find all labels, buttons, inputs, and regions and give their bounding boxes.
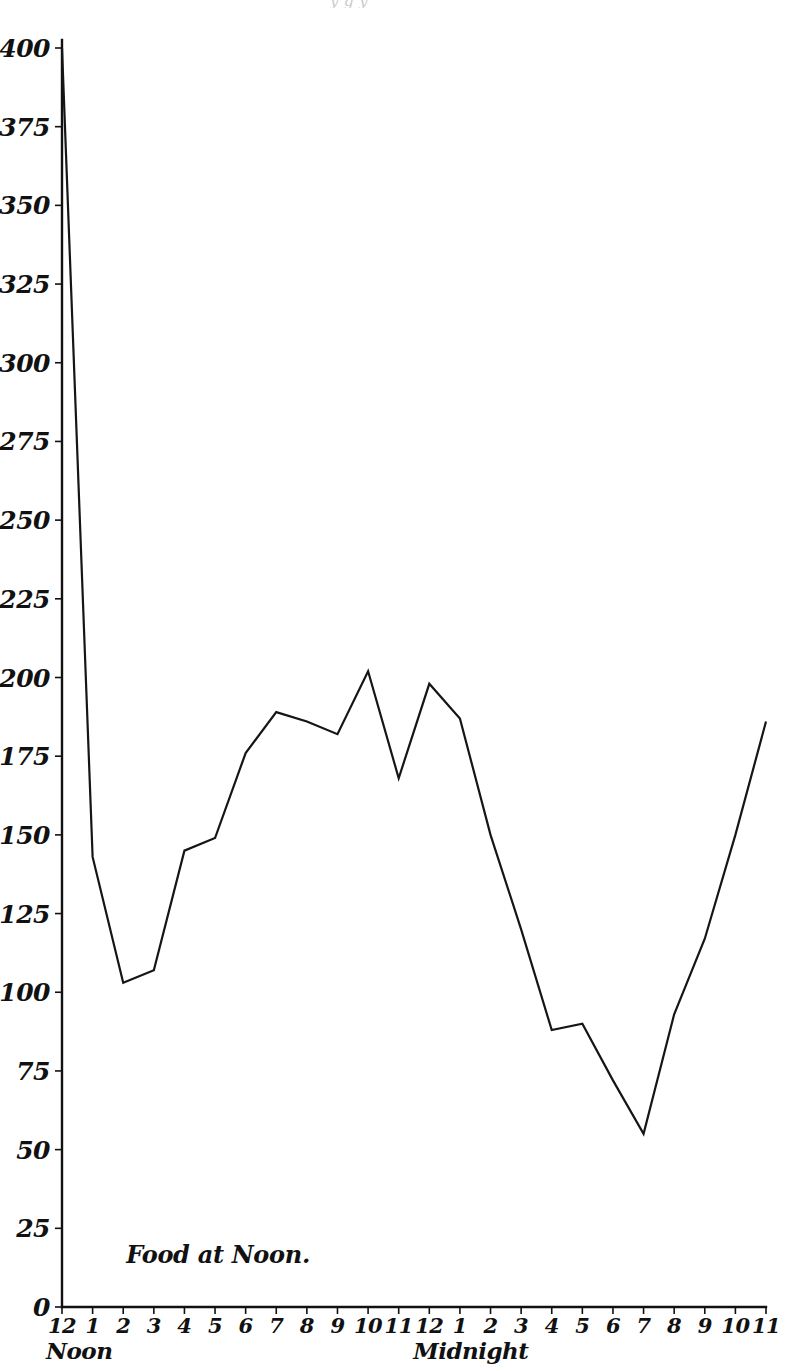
y-tick-label-150: 150 bbox=[0, 821, 51, 850]
y-axis-group: 0255075100125150175200225250275300325350… bbox=[0, 34, 62, 1322]
x-tick-label-18: 6 bbox=[606, 1313, 621, 1338]
y-tick-label-100: 100 bbox=[0, 978, 51, 1007]
x-tick-label-10: 10 bbox=[354, 1313, 383, 1338]
y-tick-label-300: 300 bbox=[0, 349, 51, 378]
x-axis-caption-noon: Noon bbox=[45, 1337, 112, 1364]
x-tick-label-19: 7 bbox=[637, 1313, 652, 1338]
y-tick-label-325: 325 bbox=[0, 270, 50, 299]
y-tick-label-350: 350 bbox=[0, 191, 51, 220]
y-tick-label-50: 50 bbox=[16, 1136, 51, 1165]
x-axis-group: 121234567891011121234567891011 NoonMidni… bbox=[45, 1307, 780, 1364]
annotation-group: Food at Noon. bbox=[125, 1240, 310, 1269]
x-tick-label-13: 1 bbox=[453, 1313, 467, 1338]
x-tick-label-16: 4 bbox=[545, 1313, 559, 1338]
line-chart-svg: 0255075100125150175200225250275300325350… bbox=[0, 0, 792, 1371]
x-tick-label-group: 121234567891011121234567891011 bbox=[48, 1313, 780, 1338]
y-tick-label-275: 275 bbox=[0, 427, 50, 456]
x-tick-label-3: 3 bbox=[147, 1313, 161, 1338]
x-tick-label-9: 9 bbox=[330, 1313, 345, 1338]
y-tick-label-group: 0255075100125150175200225250275300325350… bbox=[0, 34, 51, 1322]
x-tick-label-17: 5 bbox=[575, 1313, 589, 1338]
x-tick-label-8: 8 bbox=[299, 1313, 315, 1338]
x-tick-label-6: 6 bbox=[239, 1313, 254, 1338]
chart-annotation-0: Food at Noon. bbox=[125, 1240, 310, 1269]
y-tick-label-250: 250 bbox=[0, 506, 51, 535]
y-tick-label-75: 75 bbox=[16, 1057, 50, 1086]
y-tick-label-400: 400 bbox=[0, 34, 51, 63]
x-tick-label-5: 5 bbox=[208, 1313, 222, 1338]
x-axis-caption-group: NoonMidnight bbox=[45, 1337, 529, 1364]
x-axis-caption-midnight: Midnight bbox=[412, 1337, 529, 1364]
chart-root: y g y 0255075100125150175200225250275300… bbox=[0, 0, 792, 1371]
x-tick-label-7: 7 bbox=[269, 1313, 284, 1338]
y-tick-label-25: 25 bbox=[15, 1214, 50, 1243]
x-tick-label-21: 9 bbox=[698, 1313, 713, 1338]
x-tick-label-0: 12 bbox=[48, 1313, 76, 1338]
x-tick-label-11: 11 bbox=[385, 1313, 413, 1338]
x-tick-label-2: 2 bbox=[115, 1313, 130, 1338]
data-series-line bbox=[62, 48, 766, 1134]
x-tick-label-12: 12 bbox=[415, 1313, 443, 1338]
x-tick-label-4: 4 bbox=[177, 1313, 191, 1338]
y-tick-label-375: 375 bbox=[0, 113, 50, 142]
series-group bbox=[62, 48, 766, 1134]
x-tick-label-14: 2 bbox=[482, 1313, 497, 1338]
y-tick-label-175: 175 bbox=[0, 742, 50, 771]
y-tick-label-200: 200 bbox=[0, 664, 51, 693]
x-tick-label-15: 3 bbox=[514, 1313, 528, 1338]
y-tick-label-125: 125 bbox=[0, 900, 50, 929]
x-tick-label-1: 1 bbox=[86, 1313, 100, 1338]
y-tick-label-225: 225 bbox=[0, 585, 50, 614]
x-tick-label-22: 10 bbox=[721, 1313, 750, 1338]
x-tick-label-20: 8 bbox=[666, 1313, 682, 1338]
x-tick-label-23: 11 bbox=[752, 1313, 780, 1338]
